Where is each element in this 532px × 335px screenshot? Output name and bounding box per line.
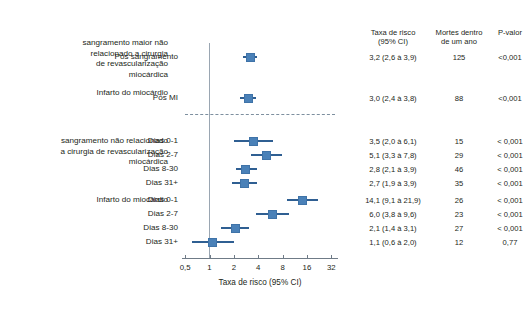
row-label: Dias 31+ bbox=[100, 178, 178, 188]
data-point-marker bbox=[262, 151, 271, 160]
cell-hazard-ratio: 6,0 (3,8 à 9,6) bbox=[358, 210, 428, 219]
cell-p-value: < 0,001 bbox=[490, 151, 530, 160]
x-axis-tick-label: 4 bbox=[244, 263, 272, 272]
data-point-marker bbox=[244, 94, 253, 103]
confidence-interval-whisker bbox=[256, 213, 289, 214]
data-point-marker bbox=[246, 53, 255, 62]
x-axis-tick-label: 1 bbox=[196, 263, 224, 272]
data-point-marker bbox=[298, 196, 307, 205]
cell-p-value: < 0,001 bbox=[490, 137, 530, 146]
x-axis-tick bbox=[331, 255, 332, 259]
cell-deaths-within-one-year: 26 bbox=[428, 196, 490, 205]
cell-p-value: < 0,001 bbox=[490, 179, 530, 188]
confidence-interval-whisker bbox=[232, 182, 257, 183]
reference-line-hr-1 bbox=[209, 43, 210, 258]
confidence-interval-whisker bbox=[251, 154, 281, 155]
x-axis-tick-label: 8 bbox=[269, 263, 297, 272]
cell-deaths-within-one-year: 12 bbox=[428, 238, 490, 247]
cell-deaths-within-one-year: 125 bbox=[428, 53, 490, 62]
row-label: Dias 31+ bbox=[100, 237, 178, 247]
confidence-interval-whisker bbox=[243, 56, 257, 57]
cell-deaths-within-one-year: 27 bbox=[428, 224, 490, 233]
cell-deaths-within-one-year: 29 bbox=[428, 151, 490, 160]
row-label: Dias 2-7 bbox=[100, 150, 178, 160]
cell-hazard-ratio: 3,0 (2,4 à 3,8) bbox=[358, 94, 428, 103]
row-label: Dias 8-30 bbox=[100, 164, 178, 174]
column-header-deaths: Mortes dentro de um ano bbox=[428, 28, 490, 46]
cell-p-value: < 0,001 bbox=[490, 224, 530, 233]
x-axis-tick-label: 0,5 bbox=[171, 263, 199, 272]
x-axis-tick-label: 2 bbox=[220, 263, 248, 272]
column-header-hazard-ratio: Taxa de risco (95% CI) bbox=[362, 28, 424, 46]
x-axis-title: Taxa de risco (95% CI) bbox=[180, 278, 340, 287]
cell-p-value: < 0,001 bbox=[490, 165, 530, 174]
data-point-marker bbox=[231, 224, 240, 233]
data-point-marker bbox=[268, 210, 277, 219]
x-axis-tick bbox=[258, 255, 259, 259]
cell-hazard-ratio: 2,7 (1,9 à 3,9) bbox=[358, 179, 428, 188]
cell-deaths-within-one-year: 88 bbox=[428, 94, 490, 103]
row-label: Dias 8-30 bbox=[100, 223, 178, 233]
data-point-marker bbox=[241, 165, 250, 174]
cell-p-value: <0,001 bbox=[490, 94, 530, 103]
column-header-pvalue: P-valor bbox=[490, 28, 530, 37]
cell-hazard-ratio: 2,1 (1,4 à 3,1) bbox=[358, 224, 428, 233]
group-separator-dashed-line bbox=[185, 114, 335, 115]
confidence-interval-whisker bbox=[287, 199, 318, 200]
x-axis-tick bbox=[283, 255, 284, 259]
cell-hazard-ratio: 14,1 (9,1 à 21,9) bbox=[358, 196, 428, 205]
forest-plot-figure: Taxa de risco (95% CI) Mortes dentro de … bbox=[0, 0, 532, 335]
row-label: Pós MI bbox=[100, 93, 178, 103]
confidence-interval-whisker bbox=[192, 241, 234, 242]
confidence-interval-whisker bbox=[240, 97, 256, 98]
data-point-marker bbox=[249, 137, 258, 146]
row-label: Dias 0-1 bbox=[100, 136, 178, 146]
cell-deaths-within-one-year: 46 bbox=[428, 165, 490, 174]
row-label: Dias 0-1 bbox=[100, 195, 178, 205]
cell-p-value: < 0,001 bbox=[490, 210, 530, 219]
row-label: Pós sangramento bbox=[100, 52, 178, 62]
cell-hazard-ratio: 5,1 (3,3 à 7,8) bbox=[358, 151, 428, 160]
cell-hazard-ratio: 3,5 (2,0 à 6,1) bbox=[358, 137, 428, 146]
x-axis-tick-label: 32 bbox=[317, 263, 345, 272]
cell-deaths-within-one-year: 23 bbox=[428, 210, 490, 219]
x-axis-tick bbox=[210, 255, 211, 259]
data-point-marker bbox=[208, 238, 217, 247]
x-axis-tick bbox=[307, 255, 308, 259]
cell-deaths-within-one-year: 15 bbox=[428, 137, 490, 146]
x-axis-tick bbox=[234, 255, 235, 259]
confidence-interval-whisker bbox=[236, 168, 258, 169]
x-axis-line bbox=[182, 258, 338, 259]
cell-p-value: 0,77 bbox=[490, 238, 530, 247]
confidence-interval-whisker bbox=[221, 227, 249, 228]
confidence-interval-whisker bbox=[234, 140, 273, 141]
cell-hazard-ratio: 1,1 (0,6 à 2,0) bbox=[358, 238, 428, 247]
data-point-marker bbox=[240, 179, 249, 188]
x-axis-tick-label: 16 bbox=[293, 263, 321, 272]
x-axis-tick bbox=[185, 255, 186, 259]
cell-deaths-within-one-year: 35 bbox=[428, 179, 490, 188]
row-label: Dias 2-7 bbox=[100, 209, 178, 219]
cell-p-value: < 0,001 bbox=[490, 196, 530, 205]
cell-hazard-ratio: 3,2 (2,6 à 3,9) bbox=[358, 53, 428, 62]
cell-p-value: <0,001 bbox=[490, 53, 530, 62]
cell-hazard-ratio: 2,8 (2,1 à 3,9) bbox=[358, 165, 428, 174]
